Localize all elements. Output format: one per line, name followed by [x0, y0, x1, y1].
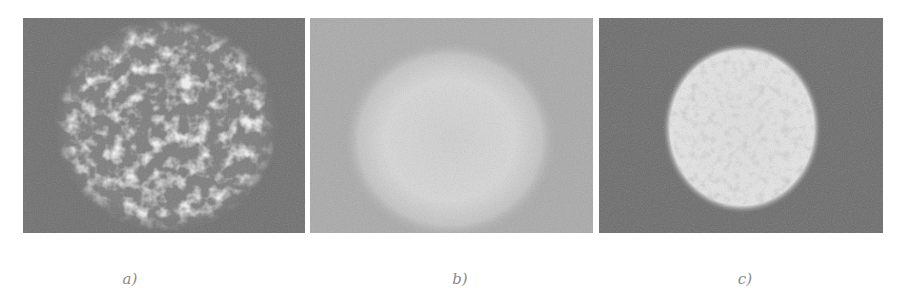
- speckle-image-c: [599, 18, 883, 233]
- caption-a: a): [100, 270, 160, 288]
- caption-c: c): [715, 270, 775, 288]
- speckle-image-b: [310, 18, 593, 233]
- image-c-grain: [599, 18, 883, 233]
- image-b-grain: [310, 18, 593, 233]
- speckle-image-a: [23, 18, 305, 233]
- image-a-grain: [23, 18, 305, 233]
- caption-b: b): [430, 270, 490, 288]
